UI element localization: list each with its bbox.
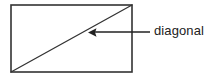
diagonal-label: diagonal (154, 23, 204, 38)
diagonal-line (11, 5, 132, 72)
figure-canvas (0, 0, 218, 77)
diagonal-of-rectangle-figure: diagonal (0, 0, 218, 77)
